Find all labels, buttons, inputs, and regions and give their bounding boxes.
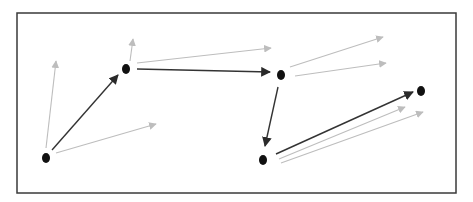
node-n1 [42, 153, 50, 163]
node-n2 [122, 64, 130, 74]
path-graph-diagram [0, 0, 473, 202]
candidate-arrow [130, 39, 133, 61]
candidate-edges [46, 37, 423, 163]
candidate-arrow [290, 37, 383, 67]
nodes [42, 64, 425, 165]
diagram-canvas [0, 0, 473, 202]
candidate-arrow [295, 63, 386, 76]
candidate-arrow [137, 48, 271, 63]
chosen-path-edges [52, 69, 413, 154]
candidate-arrow [279, 107, 405, 159]
candidate-arrow [46, 61, 56, 148]
path-arrow [52, 75, 118, 150]
node-n4 [259, 155, 267, 165]
path-arrow [265, 87, 278, 146]
node-n3 [277, 70, 285, 80]
node-n5 [417, 86, 425, 96]
path-arrow [137, 69, 270, 72]
